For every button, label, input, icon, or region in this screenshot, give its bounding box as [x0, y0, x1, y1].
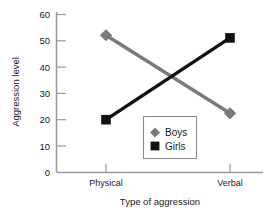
y-tick-label-0: 0 — [45, 167, 50, 178]
x-axis-ticks — [106, 164, 230, 173]
legend: Boys Girls — [144, 117, 197, 159]
legend-entry-girls[interactable]: Girls — [151, 141, 186, 152]
chart-canvas: 60 50 40 30 20 10 0 Physical Verbal Type… — [0, 0, 270, 212]
y-tick-label-20: 20 — [39, 114, 50, 125]
y-tick-label-50: 50 — [39, 35, 50, 46]
x-label-verbal: Verbal — [217, 178, 243, 188]
x-axis-category-labels: Physical Verbal — [89, 178, 243, 188]
y-tick-label-40: 40 — [39, 62, 50, 73]
y-axis-ticks — [57, 15, 67, 147]
series-boys — [100, 29, 236, 119]
y-tick-label-60: 60 — [39, 9, 50, 20]
aggression-line-chart: 60 50 40 30 20 10 0 Physical Verbal Type… — [0, 0, 270, 212]
girls-point-physical-square-icon — [101, 115, 111, 125]
y-tick-label-30: 30 — [39, 88, 50, 99]
y-tick-label-10: 10 — [39, 141, 50, 152]
girls-point-verbal-square-icon — [225, 33, 235, 43]
legend-label-girls: Girls — [165, 141, 186, 152]
legend-label-boys: Boys — [165, 127, 187, 138]
boys-line — [106, 35, 230, 113]
legend-square-icon — [151, 142, 160, 151]
x-label-physical: Physical — [89, 178, 123, 188]
girls-line — [106, 38, 230, 120]
y-axis-tick-labels: 60 50 40 30 20 10 0 — [39, 9, 50, 178]
x-axis-title: Type of aggression — [120, 196, 200, 207]
y-axis-title: Aggression level — [10, 57, 21, 127]
legend-entry-boys[interactable]: Boys — [150, 127, 187, 138]
